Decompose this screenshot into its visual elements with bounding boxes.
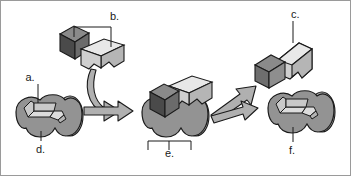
enzyme-free	[16, 95, 83, 137]
product	[255, 43, 312, 88]
label-a: a.	[25, 71, 34, 83]
figure-canvas: a. b. c. d. e. f.	[0, 0, 351, 176]
label-d: d.	[36, 143, 45, 155]
enzyme-unchanged	[268, 91, 335, 133]
label-f: f.	[289, 144, 295, 156]
label-c: c.	[291, 8, 300, 20]
enzyme-catalysis-figure: a. b. c. d. e. f.	[0, 0, 351, 176]
label-e: e.	[165, 147, 174, 159]
label-b: b.	[110, 10, 119, 22]
